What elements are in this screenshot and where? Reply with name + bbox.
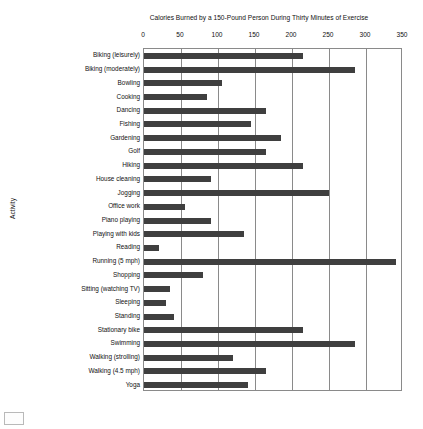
bar	[144, 94, 207, 100]
bar	[144, 80, 222, 86]
bar	[144, 341, 355, 347]
bar	[144, 245, 159, 251]
category-label: Jogging	[30, 189, 140, 196]
category-label: Fishing	[30, 120, 140, 127]
category-label: Walking (4.5 mph)	[30, 367, 140, 374]
plot-area	[143, 48, 402, 391]
x-axis-tick-labels: 050100150200250300350	[0, 31, 423, 43]
bar	[144, 327, 303, 333]
bar	[144, 382, 248, 388]
x-tick-label-100: 100	[211, 31, 222, 38]
bar	[144, 108, 266, 114]
category-label: Walking (strolling)	[30, 353, 140, 360]
bar	[144, 286, 170, 292]
y-axis-category-labels: Biking (leisurely)Biking (moderately)Bow…	[30, 48, 140, 391]
category-label: Golf	[30, 147, 140, 154]
bar	[144, 355, 233, 361]
category-label: Stationary bike	[30, 326, 140, 333]
bar	[144, 53, 303, 59]
category-label: Playing with kids	[30, 230, 140, 237]
bar	[144, 231, 244, 237]
bar	[144, 176, 211, 182]
bar	[144, 204, 185, 210]
bars-layer	[144, 49, 401, 390]
category-label: Dancing	[30, 106, 140, 113]
bar	[144, 163, 303, 169]
category-label: Biking (moderately)	[30, 65, 140, 72]
bar	[144, 218, 211, 224]
bar	[144, 190, 329, 196]
category-label: Office work	[30, 202, 140, 209]
category-label: Cooking	[30, 93, 140, 100]
x-tick-label-150: 150	[248, 31, 259, 38]
category-label: Reading	[30, 243, 140, 250]
bar	[144, 135, 281, 141]
calories-burned-bar-chart: Calories Burned by a 150-Pound Person Du…	[0, 0, 423, 429]
bar	[144, 272, 203, 278]
bar	[144, 259, 396, 265]
category-label: Shopping	[30, 271, 140, 278]
category-label: House cleaning	[30, 175, 140, 182]
bar	[144, 368, 266, 374]
category-label: Swimming	[30, 339, 140, 346]
category-label: Yoga	[30, 381, 140, 388]
bar	[144, 67, 355, 73]
bar	[144, 300, 166, 306]
bar	[144, 314, 174, 320]
x-tick-label-250: 250	[322, 31, 333, 38]
x-tick-label-300: 300	[359, 31, 370, 38]
category-label: Biking (leisurely)	[30, 51, 140, 58]
category-label: Hiking	[30, 161, 140, 168]
corner-artifact	[4, 412, 24, 425]
category-label: Running (5 mph)	[30, 257, 140, 264]
bar	[144, 149, 266, 155]
x-tick-label-50: 50	[176, 31, 183, 38]
category-label: Piano playing	[30, 216, 140, 223]
category-label: Bowling	[30, 79, 140, 86]
bar	[144, 121, 251, 127]
y-axis-title: Activity	[9, 189, 16, 229]
category-label: Gardening	[30, 134, 140, 141]
x-tick-label-350: 350	[396, 31, 407, 38]
x-tick-label-0: 0	[141, 31, 145, 38]
category-label: Sitting (watching TV)	[30, 285, 140, 292]
x-tick-label-200: 200	[285, 31, 296, 38]
category-label: Sleeping	[30, 298, 140, 305]
category-label: Standing	[30, 312, 140, 319]
chart-title: Calories Burned by a 150-Pound Person Du…	[104, 14, 414, 21]
